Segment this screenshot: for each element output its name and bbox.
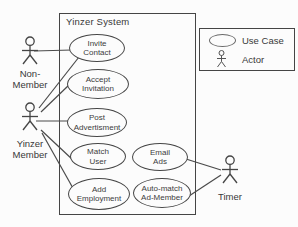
- usecase-label: Ads: [153, 157, 167, 167]
- usecase-label: Accept: [86, 75, 110, 85]
- use-case-diagram: Yinzer System Invite Contact Accept Invi…: [0, 0, 298, 227]
- stick-figure-icon: [219, 155, 241, 185]
- usecase-label: Employment: [77, 194, 121, 204]
- usecase-match-user: Match User: [70, 143, 126, 170]
- usecase-post-advertisment: Post Advertisment: [67, 108, 127, 137]
- actor-non-member-label: Non- Member: [3, 69, 57, 90]
- stick-figure-icon: [19, 102, 41, 132]
- usecase-label: Invite: [87, 39, 106, 49]
- actor-yinzer-member-label: Yinzer Member: [3, 139, 57, 160]
- actor-timer: [219, 155, 241, 189]
- usecase-invite-contact: Invite Contact: [69, 34, 125, 62]
- stick-figure-icon: [215, 50, 228, 68]
- usecase-label: Post: [89, 113, 105, 123]
- usecase-label: Invitation: [82, 84, 114, 94]
- association-email-ads-timer: [186, 159, 221, 170]
- usecase-label: Ad-Member: [141, 193, 183, 203]
- legend: Use Case Actor: [199, 28, 295, 71]
- usecase-accept-invitation: Accept Invitation: [67, 69, 129, 99]
- usecase-add-employment: Add Employment: [68, 178, 130, 210]
- usecase-label: User: [90, 157, 107, 167]
- actor-yinzer-member: [19, 102, 41, 136]
- usecase-label: Email: [150, 148, 170, 158]
- usecase-label: Add: [92, 185, 106, 195]
- actor-timer-label: Timer: [203, 192, 257, 203]
- usecase-label: Match: [87, 147, 109, 157]
- legend-use-case-label: Use Case: [242, 35, 284, 46]
- system-title: Yinzer System: [66, 16, 130, 27]
- legend-actor-label: Actor: [242, 54, 264, 65]
- actor-non-member: [19, 36, 41, 70]
- usecase-auto-match-ad-member: Auto-match Ad-Member: [133, 178, 191, 208]
- stick-figure-icon: [19, 36, 41, 66]
- usecase-label: Advertisment: [74, 123, 121, 133]
- usecase-label: Auto-match: [142, 184, 183, 194]
- legend-use-case-shape: [209, 34, 236, 47]
- usecase-email-ads: Email Ads: [132, 143, 188, 171]
- usecase-label: Contact: [83, 48, 111, 58]
